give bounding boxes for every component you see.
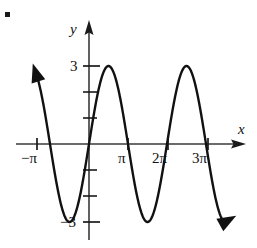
x-tick-label-neg-pi: −π <box>21 151 37 166</box>
x-tick-label-pi: π <box>118 151 126 166</box>
y-axis-label: y <box>70 22 77 37</box>
x-axis-label: x <box>238 122 245 137</box>
x-tick-label-2pi: 2π <box>152 151 167 166</box>
curve-arrowhead-lower-right <box>216 216 236 231</box>
y-tick-label-neg-3: −3 <box>60 215 76 230</box>
sine-graph-figure: y x −π π 2π 3π 3 −3 <box>0 0 257 248</box>
graph-canvas <box>0 0 257 248</box>
curve-arrowhead-upper-left <box>32 64 46 84</box>
y-tick-label-3: 3 <box>70 59 78 74</box>
x-tick-label-3pi: 3π <box>192 151 207 166</box>
